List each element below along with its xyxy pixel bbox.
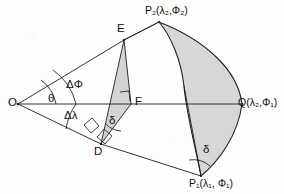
ray-O-D (18, 104, 101, 144)
point-label-P2: P₂(λ₂,Φ₂) (145, 5, 188, 16)
segment-D-P1 (101, 144, 201, 176)
angle-label-delta-at-D: δ (109, 115, 115, 127)
geometry-figure: O E F D P₂(λ₂,Φ₂) P₁(λ₁, Φ₁) Q(λ₂,Φ₁) θ … (0, 0, 284, 194)
angle-label-delta-at-P1: δ (203, 144, 209, 156)
angle-label-delta-lambda: Δλ (64, 110, 77, 122)
ray-O-E (18, 40, 124, 104)
segment-P2-E-ext (124, 22, 159, 40)
point-label-Q: Q(λ₂,Φ₁) (238, 97, 277, 108)
point-label-E: E (117, 23, 125, 35)
point-dot-E (123, 39, 125, 41)
angle-label-theta: θ (48, 93, 54, 105)
point-label-P1: P₁(λ₁, Φ₁) (189, 178, 233, 189)
point-dot-P2 (158, 21, 160, 23)
point-label-F: F (135, 96, 142, 108)
lens-P2-Q-P1-fill (159, 22, 242, 176)
angle-label-delta-phi: ΔΦ (66, 79, 83, 91)
right-angle-at-D-upper (84, 118, 99, 133)
triangle-E-F-D-fill (101, 40, 131, 144)
point-dot-O (17, 103, 20, 106)
point-label-D: D (94, 146, 102, 158)
point-label-O: O (8, 97, 17, 109)
